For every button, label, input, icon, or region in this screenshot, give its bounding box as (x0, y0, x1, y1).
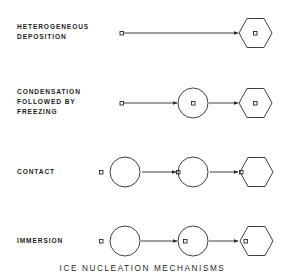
row-contact (100, 157, 274, 187)
droplet-circle-icon (110, 226, 140, 256)
diagram-title: ICE NUCLEATION MECHANISMS (0, 264, 285, 273)
row-condensation-freezing (120, 88, 272, 118)
particle-icon (120, 32, 124, 36)
particle-icon (192, 102, 196, 106)
particle-icon (184, 240, 188, 244)
row-heterogeneous-deposition (120, 19, 272, 48)
droplet-circle-icon (178, 157, 208, 187)
row-immersion (100, 226, 274, 256)
particle-icon (100, 240, 104, 244)
particle-icon (254, 32, 258, 36)
ice-crystal-hexagon-icon (239, 89, 272, 118)
particle-icon (244, 240, 248, 244)
ice-crystal-hexagon-icon (240, 227, 273, 256)
droplet-circle-icon (178, 226, 208, 256)
particle-icon (120, 102, 124, 106)
ice-crystal-hexagon-icon (239, 19, 272, 48)
droplet-circle-icon (110, 157, 140, 187)
ice-crystal-hexagon-icon (240, 158, 273, 187)
particle-icon (100, 171, 104, 175)
particle-icon (254, 102, 258, 106)
droplet-circle-icon (178, 88, 208, 118)
nucleation-diagram (0, 0, 285, 280)
